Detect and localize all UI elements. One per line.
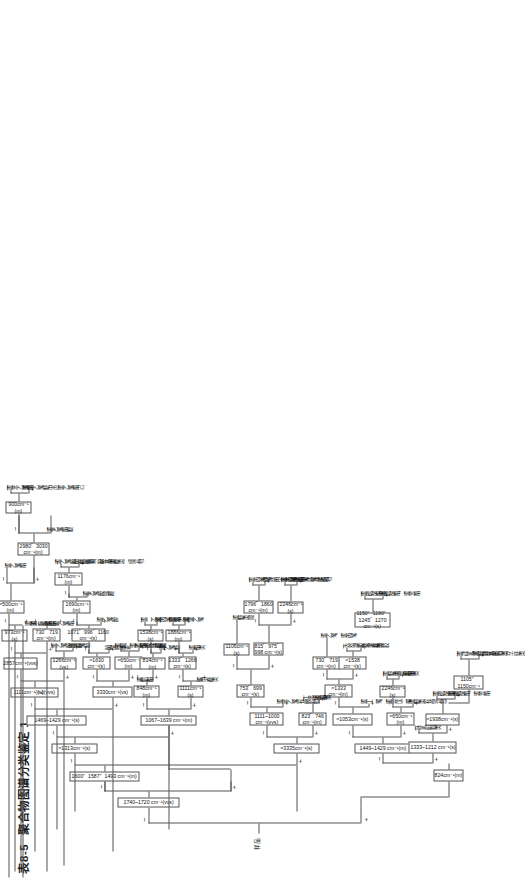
connector bbox=[18, 532, 50, 533]
minus-sign: – bbox=[319, 672, 326, 676]
minus-sign: – bbox=[1, 618, 8, 622]
minus-sign: – bbox=[143, 646, 150, 650]
connector bbox=[104, 781, 105, 791]
tree-node: 1111cm⁻¹(宽)(vvs) bbox=[10, 687, 58, 697]
tree-node: ≈1053cm⁻¹(s) bbox=[332, 713, 372, 725]
tree-node: 1333、1266 cm⁻¹(s) bbox=[168, 656, 196, 669]
connector bbox=[76, 613, 77, 625]
connector bbox=[168, 725, 169, 737]
connector bbox=[190, 697, 191, 709]
connector bbox=[8, 624, 22, 625]
connector bbox=[360, 807, 361, 823]
tree-node: 848cm⁻¹ (m) bbox=[133, 685, 159, 697]
connector bbox=[448, 763, 449, 769]
plus-sign: + bbox=[269, 664, 276, 668]
tree-node: 1106cm⁻¹ (s) bbox=[223, 643, 249, 655]
connector bbox=[152, 669, 153, 677]
tree-node: 753、699 cm⁻¹(s) bbox=[236, 684, 264, 697]
connector bbox=[400, 707, 401, 712]
connector bbox=[68, 585, 69, 597]
connector bbox=[236, 619, 237, 643]
connector bbox=[55, 650, 72, 651]
connector bbox=[352, 736, 400, 737]
connector bbox=[418, 732, 446, 733]
connector bbox=[250, 703, 251, 707]
connector bbox=[266, 733, 267, 737]
tree-node: 900cm⁻¹ (m) bbox=[5, 501, 31, 513]
connector bbox=[432, 735, 433, 741]
connector bbox=[352, 733, 353, 737]
tree-leaf-label: 聚丙烯腈共聚物 bbox=[292, 576, 327, 582]
minus-sign: – bbox=[385, 700, 392, 704]
connector bbox=[168, 768, 230, 769]
tree-leaf-label: 聚乙烯醇缩醛 bbox=[82, 590, 112, 596]
connector bbox=[34, 709, 35, 851]
connector bbox=[312, 703, 313, 712]
connector bbox=[372, 601, 373, 612]
connector bbox=[446, 725, 447, 729]
connector bbox=[296, 753, 297, 765]
minus-sign: – bbox=[140, 817, 147, 821]
connector bbox=[63, 651, 64, 657]
tree-node: ≈650cm⁻¹ (m) bbox=[386, 712, 414, 725]
connector bbox=[46, 653, 47, 871]
connector bbox=[400, 725, 401, 733]
connector bbox=[382, 737, 383, 743]
connector bbox=[338, 703, 339, 707]
tree-leaf-label: 聚氯乙烯 bbox=[182, 616, 202, 622]
tree-node: 3330cm⁻¹(vs) bbox=[92, 686, 132, 697]
connector bbox=[14, 641, 15, 653]
connector bbox=[178, 625, 179, 629]
connector bbox=[338, 706, 368, 707]
connector bbox=[468, 689, 469, 703]
connector bbox=[128, 669, 129, 681]
connector bbox=[448, 702, 468, 703]
connector bbox=[392, 706, 412, 707]
minus-sign: – bbox=[11, 526, 18, 530]
connector bbox=[352, 707, 353, 713]
tree-leaf-label: 聚一烯酯 bbox=[30, 620, 50, 626]
connector bbox=[20, 681, 21, 865]
connector bbox=[152, 653, 153, 657]
connector bbox=[18, 493, 19, 501]
connector bbox=[33, 555, 34, 583]
connector bbox=[34, 697, 35, 709]
tree-node: 824cm⁻¹(m) bbox=[433, 769, 463, 781]
tree-node: 1796、1860 cm⁻¹(m) bbox=[243, 600, 273, 613]
connector bbox=[76, 624, 100, 625]
connector bbox=[266, 707, 267, 712]
minus-sign: – bbox=[243, 700, 250, 704]
tree-leaf-label: 聚氨酯类 bbox=[394, 670, 414, 676]
connector bbox=[290, 613, 291, 621]
tree-node: 1740~1720 cm⁻¹(vvs) bbox=[117, 797, 179, 807]
connector bbox=[14, 625, 15, 629]
minus-sign: – bbox=[171, 646, 178, 650]
connector bbox=[258, 624, 290, 625]
tree-node: 815、975、 998 cm⁻¹(s) bbox=[253, 642, 283, 655]
tree-node: 1538cm⁻¹ (s) bbox=[137, 629, 163, 641]
connector bbox=[20, 669, 21, 681]
minus-sign: – bbox=[81, 646, 88, 650]
minus-sign: – bbox=[345, 730, 352, 734]
tree-node: 1176cm⁻¹ (m) bbox=[54, 572, 82, 585]
connector bbox=[448, 781, 449, 797]
connector bbox=[104, 765, 105, 771]
minus-sign: – bbox=[139, 702, 146, 706]
tree-node: 2246cm⁻¹ (s) bbox=[379, 685, 405, 697]
tree-node: 730、719 cm⁻¹(m) bbox=[32, 628, 60, 641]
tree-leaf-label: 聚酯类 bbox=[188, 644, 203, 650]
connector bbox=[392, 679, 393, 685]
connector bbox=[14, 652, 46, 653]
connector bbox=[306, 702, 318, 703]
connector bbox=[460, 658, 478, 659]
tree-node: 2980、3030 cm⁻¹(m) bbox=[17, 542, 49, 555]
connector bbox=[360, 796, 448, 797]
connector bbox=[74, 753, 75, 765]
connector bbox=[88, 652, 108, 653]
connector bbox=[382, 762, 432, 763]
connector bbox=[22, 625, 23, 877]
connector bbox=[112, 697, 113, 709]
tree-node: 814cm⁻¹ (m) bbox=[139, 657, 165, 669]
minus-sign: – bbox=[13, 674, 20, 678]
tree-leaf-label: 丁基橡胶类 bbox=[356, 642, 381, 648]
